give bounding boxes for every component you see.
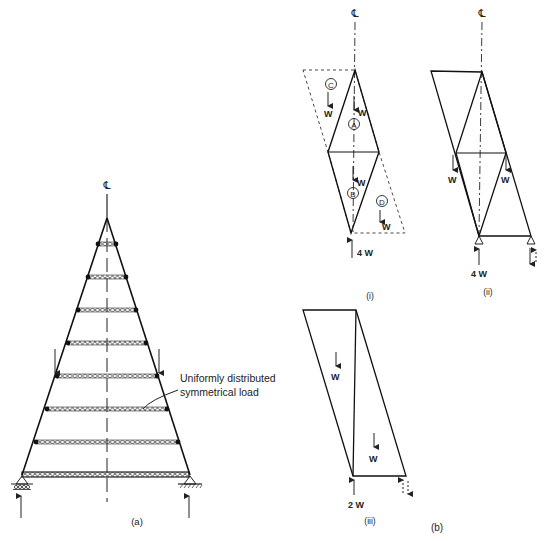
diagram-canvas: ℄ Uniformly dist bbox=[0, 0, 552, 541]
panel-b-i: ℄ C A B D W W W W bbox=[303, 7, 405, 301]
region-a: A bbox=[349, 119, 360, 130]
region-b: B bbox=[348, 188, 359, 199]
load-label-ii-left: W bbox=[448, 175, 457, 185]
region-d: D bbox=[377, 196, 388, 207]
pinned-support-icon bbox=[178, 476, 202, 488]
caption-ii: (ii) bbox=[483, 287, 493, 297]
panel-a-caption: (a) bbox=[131, 516, 143, 527]
load-label-b: W bbox=[357, 178, 366, 188]
svg-text:B: B bbox=[350, 190, 355, 199]
inner-rhombus-ii bbox=[456, 72, 506, 236]
annotation-leader bbox=[143, 390, 178, 409]
caption-i: (i) bbox=[366, 291, 374, 301]
svg-text:D: D bbox=[379, 198, 385, 207]
roller-support-icon bbox=[11, 476, 33, 490]
caption-iii: (iii) bbox=[364, 516, 375, 526]
centerline-label-ii: ℄ bbox=[477, 7, 485, 20]
load-annotation-line2: symmetrical load bbox=[180, 386, 259, 398]
region-c: C bbox=[326, 79, 337, 90]
support-icon-ii-right bbox=[527, 236, 535, 244]
left-leg bbox=[22, 218, 107, 475]
svg-text:A: A bbox=[351, 121, 357, 130]
truss-chords bbox=[22, 242, 189, 477]
reaction-label-ii: 4 W bbox=[471, 269, 488, 279]
centerline-label: ℄ bbox=[102, 179, 110, 192]
centerline-ii bbox=[479, 22, 482, 234]
vertical-member-iii bbox=[353, 310, 356, 476]
load-label-iii-upper: W bbox=[331, 372, 340, 382]
svg-text:C: C bbox=[328, 81, 334, 90]
load-label-iii-lower: W bbox=[369, 454, 378, 464]
panel-b-iii: W W 2 W (iii) bbox=[303, 310, 408, 526]
panel-b-ii: ℄ W W 4 W (ii) bbox=[431, 7, 536, 297]
panel-b-caption: (b) bbox=[431, 522, 443, 533]
load-label-d: W bbox=[382, 222, 391, 232]
load-label-c: W bbox=[324, 109, 333, 119]
reaction-label-i: 4 W bbox=[357, 248, 374, 258]
right-leg bbox=[107, 218, 190, 475]
load-label-a: W bbox=[358, 108, 367, 118]
centerline-label-i: ℄ bbox=[350, 7, 358, 20]
reaction-label-iii: 2 W bbox=[348, 500, 365, 510]
load-annotation-line1: Uniformly distributed bbox=[180, 372, 276, 384]
panel-a-truss: ℄ Uniformly dist bbox=[11, 179, 276, 527]
load-label-ii-right: W bbox=[501, 175, 510, 185]
